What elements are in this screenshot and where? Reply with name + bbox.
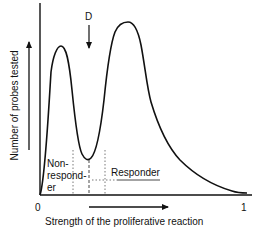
nonresponder-label-line1: Non- [47,158,69,169]
bimodal-distribution-chart [0,0,266,234]
d-marker-label: D [85,11,92,22]
nonresponder-label-line3: er [47,182,56,193]
x-axis-label: Strength of the proliferative reaction [45,216,203,227]
nonresponder-label-line2: respond- [47,170,86,181]
x-tick-zero: 0 [35,202,41,213]
x-tick-one: 1 [241,202,247,213]
y-axis-label: Number of probes tested [9,46,20,166]
responder-label: Responder [111,167,160,178]
